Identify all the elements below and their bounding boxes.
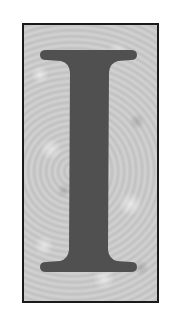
letter-i-glyph [0,0,176,315]
letter-i-shape [40,50,137,272]
